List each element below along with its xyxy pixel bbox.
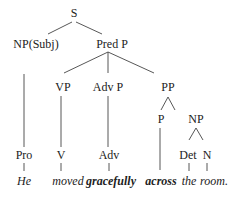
word-room: room.	[200, 174, 228, 188]
node-pro: Pro	[16, 148, 33, 162]
edge-s-predp	[76, 22, 102, 34]
edge-np-n	[196, 128, 203, 140]
syntax-tree: S NP(Subj) Pred P VP Adv P PP P NP Pro V…	[0, 0, 235, 200]
edge-pp-np	[168, 97, 175, 110]
node-adv-p: Adv P	[93, 80, 124, 94]
node-pred-p: Pred P	[96, 37, 128, 51]
word-the: the	[182, 174, 197, 188]
node-pp: PP	[161, 80, 175, 94]
word-across: across	[145, 174, 177, 188]
edge-predp-pp	[108, 52, 154, 73]
node-vp: VP	[55, 80, 71, 94]
edge-s-npsubj	[48, 22, 72, 34]
node-det: Det	[179, 148, 197, 162]
node-s: S	[71, 6, 78, 20]
edge-np-det	[189, 128, 196, 140]
node-np-subj: NP(Subj)	[13, 37, 58, 51]
word-he: He	[16, 174, 32, 188]
node-v: V	[57, 148, 66, 162]
edge-predp-vp	[64, 52, 108, 73]
node-np: NP	[188, 112, 204, 126]
edge-pp-p	[161, 97, 168, 110]
node-n: N	[203, 148, 212, 162]
word-moved: moved	[52, 174, 84, 188]
node-adv: Adv	[99, 148, 120, 162]
node-p: P	[158, 112, 165, 126]
word-gracefully: gracefully	[85, 174, 137, 188]
